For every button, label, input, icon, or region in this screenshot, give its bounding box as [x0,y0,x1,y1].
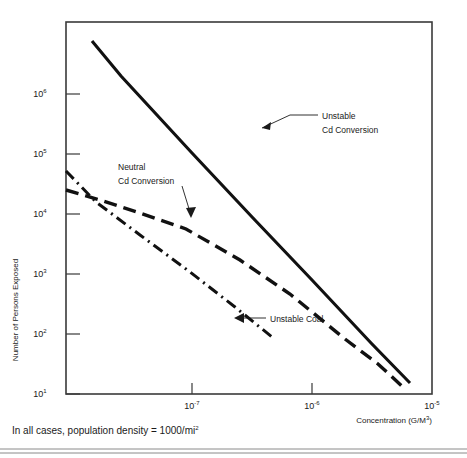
y-axis-title: Number of Persons Exposed [11,259,20,361]
y-tick-label-1e3-exp: 3 [43,268,47,274]
svg-text:101: 101 [33,388,47,399]
y-tick-label-1e4-base: 10 [33,209,43,219]
figure-container: 106 105 104 103 102 101 [0,0,467,458]
caption-text-after: 1000/mi [157,425,195,436]
annotation-label-unstable-cd-line1: Unstable [322,111,356,121]
y-tick-label-1e5-base: 10 [33,149,43,159]
x-axis-title: Concentration (G/M3) [356,415,432,425]
x-tick-label-1e-6-base: 10 [304,401,314,411]
x-tick-label-1e-7-exp: -7 [194,400,200,406]
y-tick-label-1e1-exp: 1 [43,388,47,394]
x-tick-label-1e-7-base: 10 [184,401,194,411]
y-tick-label-1e3-base: 10 [33,269,43,279]
series-unstable-coal [66,171,272,337]
arrowhead-neutral-cd-conversion [186,207,196,218]
series-neutral-cd-conversion [66,190,404,388]
x-axis-title-close: ) [429,416,432,425]
series-unstable-cd-conversion [92,41,410,383]
annotation-unstable-cd-conversion: Unstable Cd Conversion [262,111,378,135]
y-tick-label-1e2-exp: 2 [43,328,47,334]
y-tick-label-1e4-exp: 4 [43,208,47,214]
figure-caption: In all cases, population density = 1000/… [12,425,199,436]
annotation-label-neutral-cd-line2: Cd Conversion [118,176,174,186]
y-axis-tick-labels: 106 105 104 103 102 101 [33,88,47,399]
annotation-label-neutral-cd-line1: Neutral [118,162,146,172]
svg-text:106: 106 [33,88,47,99]
y-tick-label-1e6-base: 10 [33,89,43,99]
svg-text:103: 103 [33,268,47,279]
y-tick-label-1e2-base: 10 [33,329,43,339]
svg-text:10-6: 10-6 [304,400,320,411]
x-tick-label-1e-6-exp: -6 [314,400,320,406]
annotation-label-unstable-coal: Unstable Coal [270,314,324,324]
arrowhead-unstable-coal [234,313,244,323]
svg-text:105: 105 [33,148,47,159]
x-tick-label-1e-5-base: 10 [424,401,434,411]
svg-text:10-5: 10-5 [424,400,440,411]
x-axis-title-base: Concentration (G/M [356,416,426,425]
svg-text:104: 104 [33,208,47,219]
x-tick-label-1e-5-exp: -5 [434,400,440,406]
chart-canvas: 106 105 104 103 102 101 [0,0,467,458]
y-axis-ticks [66,94,80,394]
y-tick-label-1e5-exp: 5 [43,148,47,154]
x-axis-tick-labels: 10-7 10-6 10-5 [184,400,440,411]
caption-text-before: In all cases, population density [12,425,151,436]
caption-exponent: 2 [195,425,199,431]
svg-text:102: 102 [33,328,47,339]
arrowhead-unstable-cd-conversion [262,122,271,130]
y-tick-label-1e6-exp: 6 [43,88,47,94]
annotation-label-unstable-cd-line2: Cd Conversion [322,125,378,135]
x-axis-ticks [192,383,312,394]
y-tick-label-1e1-base: 10 [33,389,43,399]
svg-text:10-7: 10-7 [184,400,200,411]
